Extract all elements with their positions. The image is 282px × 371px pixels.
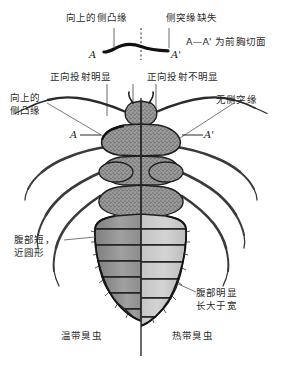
pronotum-marker-A-left: A <box>70 129 77 140</box>
abdomen-seg-6-right <box>141 298 171 317</box>
head-right <box>141 101 157 126</box>
metathorax-left <box>99 185 141 216</box>
metathorax-right <box>141 185 183 216</box>
annotation-side-right: 无侧突缘 <box>216 94 257 106</box>
antenna-left <box>48 97 126 112</box>
bedbug-left-half <box>15 92 141 321</box>
abdomen-seg-1-left <box>95 214 141 229</box>
abdomen-seg-3-left <box>96 245 141 261</box>
bedbug-comparison-figure: 向上的侧凸缘 侧突缘缺失 A—A' 为前胸切面 A A' 正向投射明显 正向投射… <box>0 0 282 371</box>
leader-abdomen-right <box>178 284 196 292</box>
leader-abdomen-left <box>64 237 95 240</box>
head-left <box>125 101 141 126</box>
pronotum-marker-A-right: A' <box>204 129 214 140</box>
annotation-mid-right: 正向投射不明显 <box>147 71 218 83</box>
annotation-top-right: 侧突缘缺失 <box>166 12 217 24</box>
abdomen-seg-2-left <box>95 229 141 245</box>
abdomen-seg-5-right <box>141 279 179 298</box>
pronotum-left <box>102 124 141 156</box>
abdomen-seg-4-right <box>141 262 183 279</box>
species-name-right: 热带臭虫 <box>172 330 213 342</box>
wingpad-left <box>99 162 133 182</box>
annotation-abdomen-left-line1: 腹部短， <box>14 234 55 246</box>
hindleg-right <box>182 196 226 248</box>
wingpad-right <box>149 162 183 182</box>
species-name-left: 温带臭虫 <box>61 330 102 342</box>
abdomen-seg-4-left <box>98 261 141 277</box>
cross-section-marker-A-prime: A' <box>171 49 181 60</box>
annotation-mid-left: 正向投射明显 <box>50 71 111 83</box>
annotation-abdomen-right-line1: 腹部明显 <box>196 287 237 299</box>
abdomen-seg-1-right <box>141 214 186 229</box>
hindleg-left <box>56 196 100 248</box>
annotation-abdomen-right-line2: 长大于宽 <box>196 300 237 312</box>
midleg-right <box>176 170 236 215</box>
annotation-side-left-line2: 侧凸缘 <box>10 105 41 117</box>
annotation-top-left: 向上的侧凸缘 <box>66 12 127 24</box>
annotation-side-left-line1: 向上的 <box>10 92 41 104</box>
cross-section-marker-A: A <box>89 49 96 60</box>
abdomen-seg-3-right <box>141 245 185 262</box>
pronotum-right <box>141 124 180 156</box>
illustration-canvas <box>0 0 282 371</box>
abdomen-seg-2-right <box>141 229 186 245</box>
annotation-abdomen-left-line2: 近圆形 <box>14 247 45 259</box>
cross-section-caption: A—A' 为前胸切面 <box>186 36 266 48</box>
midleg-left <box>46 170 106 215</box>
